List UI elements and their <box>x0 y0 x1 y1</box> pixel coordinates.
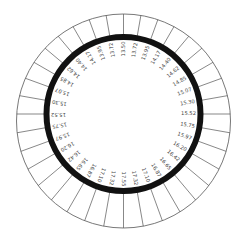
segment-divider-line <box>58 36 74 55</box>
segment-divider-line <box>150 186 163 220</box>
segment-divider-line <box>34 62 57 75</box>
dial-label: 16.65 <box>75 157 89 172</box>
dial-label: 16.87 <box>150 162 163 178</box>
dial-labels: 13.5013.7213.9514.1714.4014.6214.8515.07… <box>51 42 196 187</box>
segment-divider-line <box>196 140 226 151</box>
dial-label: 16.42 <box>66 149 81 163</box>
segment-divider-line <box>85 186 98 220</box>
dial-label: 14.62 <box>66 66 81 80</box>
dial-label: 14.40 <box>74 57 88 72</box>
segment-divider-line <box>182 48 201 64</box>
segment-divider-line <box>137 15 141 38</box>
dial-label: 15.52 <box>181 110 196 116</box>
thick-black-ring <box>47 37 201 191</box>
dial-label: 15.97 <box>177 130 193 141</box>
dial-label: 15.97 <box>55 131 71 142</box>
segment-divider-line <box>173 36 189 55</box>
dial-label: 17.10 <box>141 167 152 183</box>
segment-divider-line <box>73 27 85 48</box>
dial-label: 14.85 <box>59 76 75 89</box>
dial-label: 14.40 <box>158 56 172 71</box>
dial-label: 13.72 <box>107 42 115 58</box>
dial-label: 15.75 <box>52 122 68 130</box>
dial-label: 13.72 <box>130 42 138 58</box>
circular-dial-diagram: 13.5013.7213.9514.1714.4014.6214.8515.07… <box>0 0 246 243</box>
dial-label: 15.30 <box>180 98 196 106</box>
dial-label: 17.10 <box>96 167 107 183</box>
segment-divider-line <box>199 127 230 132</box>
dial-label: 17.32 <box>109 170 117 186</box>
dial-label: 14.17 <box>84 50 97 66</box>
segment-divider-line <box>162 27 174 48</box>
segment-divider-line <box>173 173 196 200</box>
segment-divider-line <box>190 62 213 75</box>
segment-divider-line <box>28 153 57 170</box>
segment-divider-line <box>190 153 219 170</box>
dial-label: 16.42 <box>166 148 181 162</box>
segment-divider-line <box>150 20 158 42</box>
dial-label: 14.85 <box>172 75 188 88</box>
dial-label: 15.30 <box>52 99 68 107</box>
segment-divider-line <box>67 181 85 212</box>
dial-label: 13.95 <box>140 45 151 61</box>
segment-divider-line <box>137 190 143 226</box>
dial-label: 13.50 <box>120 42 126 57</box>
dial-label: 15.07 <box>54 87 70 98</box>
segment-divider-line <box>25 78 51 87</box>
segment-divider-line <box>21 140 51 151</box>
segment-divider-line <box>38 163 64 185</box>
segment-divider-line <box>45 48 64 64</box>
dial-label: 13.95 <box>95 45 106 61</box>
dial-label: 16.20 <box>172 140 188 153</box>
thick-ring-circle <box>47 37 201 191</box>
segment-divider-line <box>162 181 180 212</box>
segment-divider-line <box>17 127 48 132</box>
dial-label: 17.32 <box>131 170 139 186</box>
segment-divider-line <box>104 190 110 226</box>
segment-divider-line <box>20 96 48 101</box>
dial-label: 16.87 <box>85 163 98 179</box>
dial-label: 15.07 <box>176 86 192 97</box>
dial-label: 17.55 <box>121 172 127 187</box>
segment-divider-line <box>51 173 74 200</box>
dial-label: 14.17 <box>149 49 162 65</box>
segment-divider-line <box>196 78 222 87</box>
segment-divider-line <box>199 96 227 101</box>
segment-divider-line <box>182 163 208 185</box>
segment-divider-line <box>106 15 110 38</box>
dial-label: 16.20 <box>60 141 76 154</box>
dial-label: 16.65 <box>159 156 173 171</box>
segment-divider-line <box>89 20 97 42</box>
dial-label: 15.52 <box>51 112 66 118</box>
dial-label: 15.75 <box>180 120 196 128</box>
dial-label: 14.62 <box>165 65 180 79</box>
